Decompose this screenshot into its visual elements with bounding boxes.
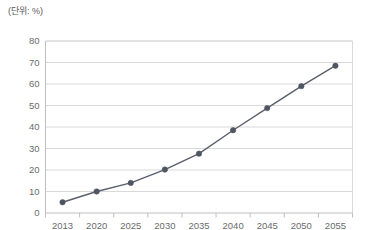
x-axis-tick-label: 2055 bbox=[325, 220, 346, 230]
y-axis-tick-label: 30 bbox=[29, 143, 40, 154]
data-point-marker bbox=[94, 189, 99, 194]
y-axis-tick-label: 40 bbox=[29, 121, 40, 132]
x-axis-tick-label: 2013 bbox=[52, 220, 73, 230]
x-axis-tick-label: 2050 bbox=[291, 220, 312, 230]
data-point-marker bbox=[196, 151, 201, 156]
y-axis-tick-label: 80 bbox=[29, 35, 40, 46]
line-chart-figure: (단위: %) 01020304050607080 20132020202520… bbox=[0, 0, 366, 230]
x-axis-tick-marks bbox=[46, 213, 353, 218]
x-axis-tick-label: 2020 bbox=[86, 220, 107, 230]
x-axis-tick-label: 2025 bbox=[120, 220, 141, 230]
y-axis-tick-label: 70 bbox=[29, 57, 40, 68]
y-axis-tick-labels: 01020304050607080 bbox=[29, 35, 40, 218]
y-axis-tick-label: 20 bbox=[29, 164, 40, 175]
y-axis-tick-label: 10 bbox=[29, 186, 40, 197]
x-axis-tick-label: 2030 bbox=[154, 220, 175, 230]
data-point-marker bbox=[162, 167, 167, 172]
data-point-marker bbox=[333, 63, 338, 68]
gridlines-group bbox=[46, 41, 353, 192]
series-line-path bbox=[63, 66, 336, 203]
data-point-marker bbox=[265, 105, 270, 110]
x-axis-tick-label: 2045 bbox=[257, 220, 278, 230]
x-axis-tick-label: 2040 bbox=[223, 220, 244, 230]
data-point-marker bbox=[299, 83, 304, 88]
x-axis-tick-label: 2035 bbox=[188, 220, 209, 230]
chart-plot-area: 01020304050607080 2013202020252030203520… bbox=[0, 0, 366, 230]
data-point-marker bbox=[60, 200, 65, 205]
x-axis-tick-labels: 201320202025203020352040204520502055 bbox=[52, 220, 346, 230]
data-point-marker bbox=[128, 180, 133, 185]
y-axis-tick-label: 50 bbox=[29, 100, 40, 111]
y-axis-tick-label: 0 bbox=[34, 207, 39, 218]
data-point-marker bbox=[230, 128, 235, 133]
y-axis-tick-label: 60 bbox=[29, 78, 40, 89]
